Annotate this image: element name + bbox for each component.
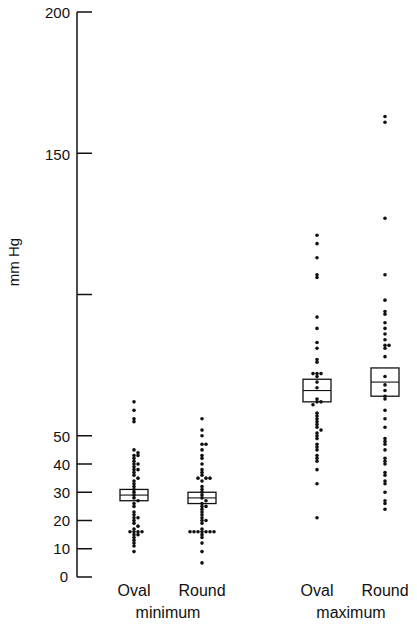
data-point — [136, 476, 140, 480]
data-point — [315, 361, 319, 365]
data-point — [383, 321, 387, 325]
data-point — [319, 428, 323, 432]
data-point — [200, 496, 204, 500]
data-point — [136, 499, 140, 503]
data-point — [315, 315, 319, 319]
data-point — [315, 468, 319, 472]
data-point — [383, 490, 387, 494]
data-point — [204, 476, 208, 480]
data-point — [315, 242, 319, 246]
data-point — [200, 457, 204, 461]
data-point — [383, 482, 387, 486]
data-point — [208, 476, 212, 480]
data-point — [383, 383, 387, 387]
y-tick-label-30: 30 — [53, 484, 70, 501]
data-point — [315, 346, 319, 350]
data-point — [383, 389, 387, 393]
plot-area — [120, 115, 399, 565]
data-point — [383, 312, 387, 316]
data-point — [200, 550, 204, 554]
data-point — [200, 428, 204, 432]
data-point — [315, 459, 319, 463]
data-point — [319, 400, 323, 404]
data-point — [200, 448, 204, 452]
y-tick-label-40: 40 — [53, 456, 70, 473]
data-point — [200, 541, 204, 545]
data-point — [200, 479, 204, 483]
data-point — [387, 344, 391, 348]
data-point — [204, 499, 208, 503]
y-tick-label-50: 50 — [53, 428, 70, 445]
data-point — [200, 417, 204, 421]
data-point — [319, 372, 323, 376]
data-point — [315, 341, 319, 345]
data-point — [136, 454, 140, 458]
data-point — [132, 505, 136, 509]
dot-plot-chart: 0 10 20 30 40 50 150 200 mm Hg Oval Roun… — [0, 0, 417, 626]
data-point — [208, 530, 212, 534]
data-point — [200, 474, 204, 478]
y-tick-label-0: 0 — [60, 568, 68, 585]
y-tick-label-150: 150 — [45, 146, 70, 163]
data-point — [192, 530, 196, 534]
data-point — [200, 522, 204, 526]
data-point — [315, 516, 319, 520]
series-maximum-oval — [303, 233, 331, 519]
data-point — [383, 120, 387, 124]
data-point — [136, 468, 140, 472]
data-point — [315, 256, 319, 260]
data-point — [132, 409, 136, 413]
data-point — [315, 400, 319, 404]
data-point — [204, 530, 208, 534]
data-point — [132, 522, 136, 526]
data-point — [136, 516, 140, 520]
data-point — [315, 448, 319, 452]
data-point — [315, 276, 319, 280]
data-point — [315, 375, 319, 379]
series-maximum-round — [371, 115, 399, 511]
data-point — [200, 462, 204, 466]
data-point — [204, 505, 208, 509]
data-point — [383, 462, 387, 466]
data-point — [311, 403, 315, 407]
data-point — [383, 338, 387, 342]
data-point — [132, 544, 136, 548]
data-point — [200, 536, 204, 540]
data-point — [315, 386, 319, 390]
data-point — [383, 409, 387, 413]
data-point — [196, 476, 200, 480]
data-point — [383, 474, 387, 478]
data-point — [315, 425, 319, 429]
data-point — [383, 417, 387, 421]
data-point — [200, 442, 204, 446]
data-point — [383, 332, 387, 336]
data-point — [136, 462, 140, 466]
data-point — [383, 346, 387, 350]
y-tick-label-10: 10 — [53, 540, 70, 557]
data-point — [212, 530, 216, 534]
data-point — [311, 372, 315, 376]
y-tick-label-20: 20 — [53, 512, 70, 529]
data-point — [383, 355, 387, 359]
group-label-maximum: maximum — [316, 604, 385, 621]
data-point — [315, 482, 319, 486]
data-point — [383, 507, 387, 511]
data-point — [188, 530, 192, 534]
data-point — [383, 327, 387, 331]
data-point — [128, 530, 132, 534]
data-point — [136, 533, 140, 537]
x-label-minimum-round: Round — [178, 582, 225, 599]
y-tick-label-200: 200 — [45, 4, 70, 21]
x-label-maximum-oval: Oval — [301, 582, 334, 599]
data-point — [132, 496, 136, 500]
data-point — [315, 233, 319, 237]
data-point — [383, 216, 387, 220]
data-point — [204, 519, 208, 523]
data-point — [132, 550, 136, 554]
data-point — [383, 448, 387, 452]
data-point — [383, 442, 387, 446]
data-point — [140, 530, 144, 534]
data-point — [200, 561, 204, 565]
data-point — [383, 397, 387, 401]
data-point — [383, 115, 387, 119]
